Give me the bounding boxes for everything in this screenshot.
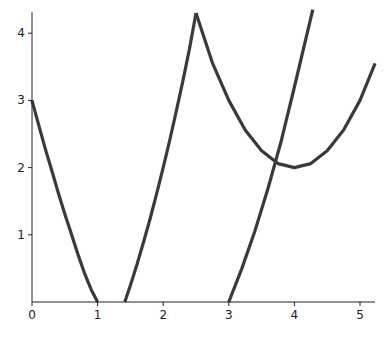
series-line-4 (229, 10, 313, 302)
y-ticks: 1234 (17, 26, 32, 242)
x-tick-label: 3 (225, 308, 233, 322)
x-tick-label: 0 (28, 308, 36, 322)
x-tick-label: 1 (94, 308, 102, 322)
x-tick-label: 4 (291, 308, 299, 322)
x-tick-label: 2 (159, 308, 167, 322)
series-line-1 (32, 100, 98, 302)
x-tick-label: 5 (356, 308, 364, 322)
y-tick-label: 1 (17, 228, 25, 242)
plot-curves (32, 10, 375, 302)
series-line-2 (125, 13, 196, 302)
line-chart: 012345 1234 (0, 0, 392, 344)
series-line-3 (196, 13, 375, 168)
y-tick-label: 3 (17, 93, 25, 107)
y-tick-label: 4 (17, 26, 25, 40)
x-ticks: 012345 (28, 302, 364, 322)
y-tick-label: 2 (17, 161, 25, 175)
